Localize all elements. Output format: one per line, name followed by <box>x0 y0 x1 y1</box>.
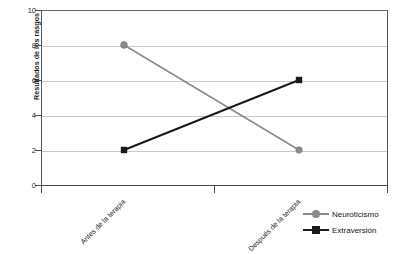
series-line-extraversion <box>124 80 299 150</box>
data-point-neuroticismo-antes <box>121 42 128 49</box>
legend-item-neuroticismo: Neuroticismo <box>303 206 397 222</box>
legend-swatch-neuroticismo <box>303 208 329 220</box>
square-marker-icon <box>312 226 320 234</box>
chart-legend: Neuroticismo Extraversión <box>303 206 397 238</box>
legend-swatch-extraversion <box>303 224 329 236</box>
data-point-extraversion-antes <box>121 147 127 153</box>
legend-label-neuroticismo: Neuroticismo <box>332 210 379 219</box>
circle-marker-icon <box>312 210 320 218</box>
legend-label-extraversion: Extraversión <box>332 226 376 235</box>
legend-item-extraversion: Extraversión <box>303 222 397 238</box>
data-point-neuroticismo-despues <box>296 147 302 153</box>
series-line-neuroticismo <box>124 45 299 150</box>
line-chart-figure: Resultados de los rasgos 10 8 6 4 2 0 <box>0 0 397 254</box>
data-point-extraversion-despues <box>296 77 302 83</box>
